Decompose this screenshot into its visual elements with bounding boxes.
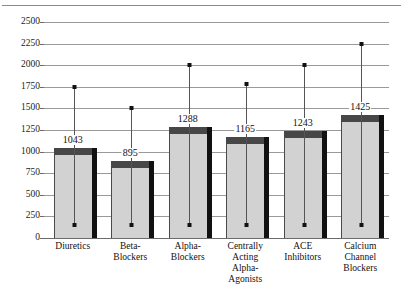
error-bar-cap-upper [187, 63, 191, 67]
bar-column [169, 127, 207, 238]
gridline-2000 [44, 65, 389, 66]
category-label: Beta-Blockers [113, 241, 147, 263]
gridline-2500 [44, 22, 389, 23]
category-label: CentrallyActingAlpha-Agonists [228, 241, 263, 285]
error-bar-cap-lower [187, 223, 191, 227]
bar-column [341, 115, 379, 238]
error-bar-line [189, 65, 190, 225]
plot-area: 10438951288116512431425 [44, 22, 389, 238]
y-tick-label: 1250 [21, 125, 40, 135]
category-label-line: Blockers [171, 252, 205, 263]
bar-top-face [169, 127, 207, 134]
bar-column [284, 131, 322, 238]
category-label-line: Alpha- [228, 263, 263, 274]
y-tick-label: 2000 [21, 60, 40, 70]
y-tick-label: 250 [26, 212, 40, 222]
category-label: Diuretics [55, 241, 90, 252]
bar-top-face [284, 131, 322, 138]
bar-top-face [54, 148, 92, 155]
category-label-line: Calcium [343, 241, 377, 252]
y-tick-mark [40, 152, 44, 153]
bar-side-face [322, 131, 327, 238]
bar-value-label: 1425 [349, 102, 371, 112]
category-label-line: Centrally [228, 241, 263, 252]
y-tick-mark [40, 108, 44, 109]
bar-front-face [169, 127, 207, 238]
error-bar-line [246, 84, 247, 225]
error-bar-cap-lower [302, 223, 306, 227]
chart-figure: 02505007501000125015001750200022502500 1… [0, 0, 403, 288]
error-bar-cap-upper [360, 42, 364, 46]
error-bar-line [131, 108, 132, 225]
category-label: ACEInhibitors [284, 241, 321, 263]
y-tick-mark [40, 22, 44, 23]
error-bar-cap-upper [245, 82, 249, 86]
category-label: CalciumChannelBlockers [343, 241, 377, 274]
y-tick-label: 500 [26, 190, 40, 200]
category-label-line: Diuretics [55, 241, 90, 252]
y-tick-label: 2500 [21, 17, 40, 27]
y-tick-label: 1000 [21, 147, 40, 157]
category-label-line: ACE [284, 241, 321, 252]
bar-value-label: 895 [122, 148, 139, 158]
bar-front-face [341, 115, 379, 238]
gridline-2250 [44, 44, 389, 45]
gridline-1250 [44, 130, 389, 131]
bar-side-face [264, 137, 269, 238]
y-tick-mark [40, 216, 44, 217]
bar-value-label: 1165 [234, 124, 256, 134]
y-tick-label: 1500 [21, 104, 40, 114]
y-tick-mark [40, 238, 44, 239]
bar-side-face [379, 115, 384, 238]
error-bar-cap-lower [130, 223, 134, 227]
error-bar-cap-upper [72, 85, 76, 89]
category-label-line: Blockers [113, 252, 147, 263]
category-label-line: Inhibitors [284, 252, 321, 263]
error-bar-cap-upper [130, 106, 134, 110]
y-tick-mark [40, 130, 44, 131]
gridline-0 [44, 238, 389, 239]
category-label-line: Beta- [113, 241, 147, 252]
error-bar-line [304, 65, 305, 225]
bar-value-label: 1043 [62, 135, 84, 145]
y-tick-label: 1750 [21, 82, 40, 92]
bar-value-label: 1243 [292, 118, 314, 128]
y-tick-mark [40, 44, 44, 45]
error-bar-cap-lower [245, 223, 249, 227]
y-tick-mark [40, 65, 44, 66]
y-tick-label: 2250 [21, 39, 40, 49]
y-tick-mark [40, 195, 44, 196]
gridline-1750 [44, 87, 389, 88]
figure-top-rule [2, 5, 401, 6]
category-label: Alpha-Blockers [171, 241, 205, 263]
bar-front-face [284, 131, 322, 238]
bar-side-face [149, 161, 154, 238]
error-bar-cap-lower [360, 223, 364, 227]
category-label-line: Channel [343, 252, 377, 263]
category-label-line: Agonists [228, 274, 263, 285]
error-bar-line [74, 87, 75, 225]
bar-side-face [92, 148, 97, 238]
error-bar-line [361, 44, 362, 225]
bar-value-label: 1288 [177, 114, 199, 124]
error-bar-cap-upper [302, 63, 306, 67]
gridline-1500 [44, 108, 389, 109]
bar-top-face [111, 161, 149, 168]
category-label-line: Alpha- [171, 241, 205, 252]
y-tick-label: 750 [26, 168, 40, 178]
category-label-line: Acting [228, 252, 263, 263]
error-bar-cap-lower [72, 223, 76, 227]
bar-top-face [226, 137, 264, 144]
y-tick-mark [40, 173, 44, 174]
category-label-line: Blockers [343, 263, 377, 274]
y-axis-tick-labels: 02505007501000125015001750200022502500 [0, 22, 40, 238]
y-tick-mark [40, 87, 44, 88]
bar-side-face [207, 127, 212, 238]
bar-top-face [341, 115, 379, 122]
